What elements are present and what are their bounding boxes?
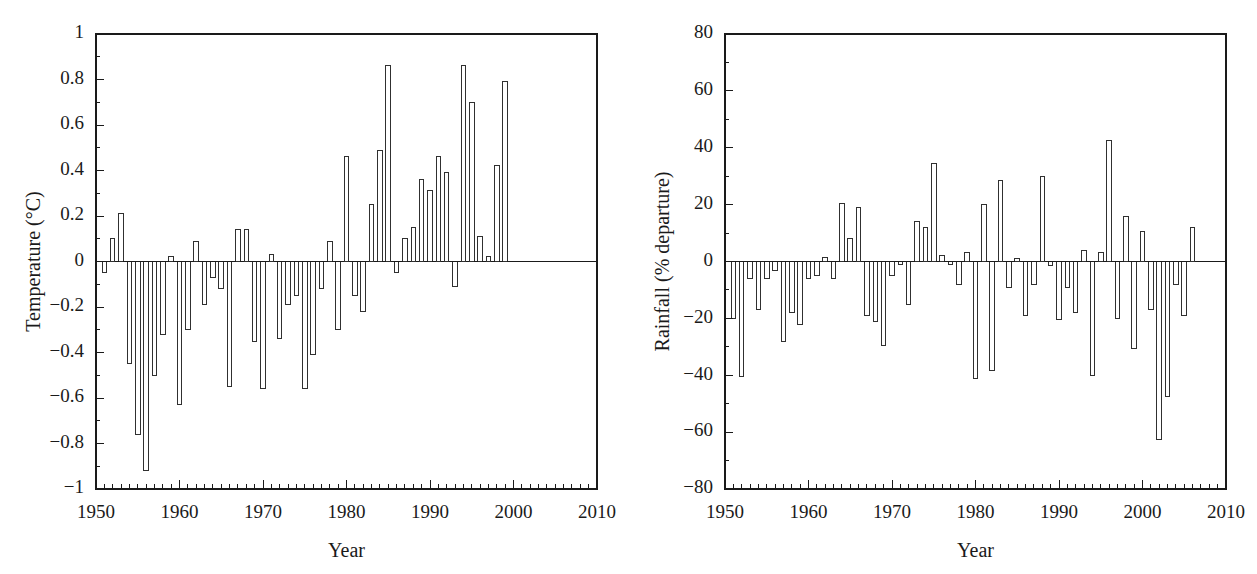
x-tick-label: 1980: [957, 501, 995, 522]
x-tick-label: 2000: [495, 501, 533, 522]
bar: [1124, 216, 1129, 262]
bar: [169, 257, 174, 262]
bar: [1174, 262, 1179, 285]
bar: [461, 66, 466, 262]
bar: [119, 214, 124, 262]
bar: [965, 253, 970, 262]
y-tick-label: −0.2: [50, 294, 84, 315]
y-axis-title: Temperature (°C): [22, 191, 45, 331]
x-tick-label: 1960: [161, 501, 199, 522]
bar: [915, 222, 920, 262]
bar: [973, 262, 978, 379]
bar: [469, 102, 474, 261]
bar: [269, 255, 274, 262]
bar: [428, 191, 433, 262]
x-tick-label: 1970: [244, 501, 282, 522]
x-axis-title: Year: [328, 539, 365, 561]
bar: [286, 262, 291, 305]
bar: [1190, 227, 1195, 261]
y-tick-label: −80: [683, 476, 713, 497]
bar: [277, 262, 282, 339]
bar: [1149, 262, 1154, 310]
bar: [1107, 141, 1112, 262]
bar: [739, 262, 744, 377]
bar: [1007, 262, 1012, 288]
bar: [1032, 262, 1037, 285]
bar: [344, 157, 349, 262]
bar: [227, 262, 232, 387]
bar-series: [731, 141, 1195, 440]
bar: [748, 262, 753, 279]
y-tick-label: 0: [704, 249, 714, 270]
bar: [806, 262, 811, 279]
y-tick-label: 0.8: [60, 67, 84, 88]
bar: [102, 262, 107, 273]
x-tick-label: 1970: [873, 501, 911, 522]
y-tick-label: 0: [75, 249, 85, 270]
bar: [1090, 262, 1095, 376]
bar: [773, 262, 778, 271]
bar: [990, 262, 995, 371]
bar: [831, 262, 836, 279]
bar: [386, 66, 391, 262]
bar: [152, 262, 157, 376]
bar: [236, 230, 241, 262]
bar: [931, 163, 936, 261]
bar: [840, 203, 845, 261]
bar: [302, 262, 307, 389]
bar: [177, 262, 182, 405]
bar: [957, 262, 962, 285]
bar: [1073, 262, 1078, 313]
bar: [1165, 262, 1170, 397]
bar: [252, 262, 257, 342]
x-tick-label: 1950: [77, 501, 115, 522]
y-tick-label: 60: [694, 78, 713, 99]
bar: [890, 262, 895, 276]
bar: [790, 262, 795, 313]
temperature-chart-svg: −1−0.8−0.6−0.4−0.200.20.40.60.8119501960…: [0, 0, 628, 574]
bar: [194, 241, 199, 261]
bar: [202, 262, 207, 305]
bar: [311, 262, 316, 355]
bar: [110, 239, 115, 262]
bar: [1132, 262, 1137, 349]
bar: [353, 262, 358, 296]
bar: [948, 262, 953, 265]
bar: [815, 262, 820, 276]
bar: [856, 207, 861, 261]
y-tick-label: 80: [694, 21, 713, 42]
bar: [336, 262, 341, 330]
y-tick-label: 20: [694, 192, 713, 213]
bar: [881, 262, 886, 346]
bar: [1115, 262, 1120, 319]
bar: [411, 227, 416, 261]
x-axis-title: Year: [957, 539, 994, 561]
bar: [756, 262, 761, 310]
bar: [848, 239, 853, 262]
bar: [1023, 262, 1028, 316]
y-tick-label: −1: [64, 476, 84, 497]
bar: [436, 157, 441, 262]
x-tick-label: 1990: [1040, 501, 1078, 522]
x-tick-label: 1950: [706, 501, 744, 522]
x-tick-label: 1980: [328, 501, 366, 522]
bar: [503, 82, 508, 262]
y-tick-label: −20: [683, 306, 713, 327]
temperature-chart-panel: −1−0.8−0.6−0.4−0.200.20.40.60.8119501960…: [0, 0, 628, 574]
bar: [798, 262, 803, 325]
bar: [486, 257, 491, 262]
bar: [244, 230, 249, 262]
bar: [1140, 232, 1145, 262]
bar: [403, 239, 408, 262]
bar: [982, 205, 987, 262]
bar: [144, 262, 149, 471]
bar: [1065, 262, 1070, 288]
bar: [1082, 250, 1087, 261]
bar: [161, 262, 166, 335]
bar: [211, 262, 216, 278]
bar: [1098, 253, 1103, 262]
y-tick-label: −0.6: [50, 385, 84, 406]
bar: [361, 262, 366, 312]
y-tick-label: −60: [683, 419, 713, 440]
bar: [186, 262, 191, 330]
